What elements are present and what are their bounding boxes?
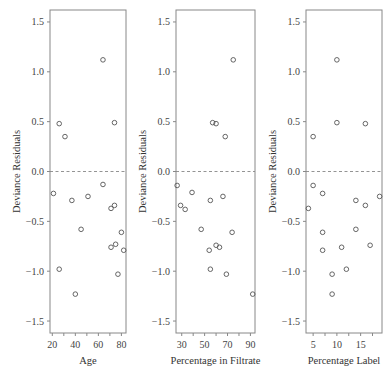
data-point <box>116 272 121 277</box>
y-tick-label: 0.5 <box>158 116 171 127</box>
y-tick-label: −0.5 <box>26 216 44 227</box>
data-point <box>109 245 114 250</box>
y-tick-label: 0.5 <box>288 116 301 127</box>
x-axis-title: Percentage Label <box>308 355 381 366</box>
y-tick-label: −1.5 <box>26 316 44 327</box>
residual-scatter-panels: −1.5−1.0−0.50.00.51.01.520406080AgeDevia… <box>0 0 392 378</box>
data-point <box>57 267 62 272</box>
data-point <box>199 227 204 232</box>
y-tick-label: 0.0 <box>288 166 301 177</box>
data-point <box>250 292 255 297</box>
data-point <box>339 245 344 250</box>
data-point <box>224 272 229 277</box>
data-point <box>113 242 118 247</box>
y-tick-label: −1.5 <box>282 316 300 327</box>
x-tick-label: 10 <box>332 339 342 350</box>
x-tick-label: 20 <box>47 339 57 350</box>
data-point <box>221 194 226 199</box>
x-tick-label: 70 <box>223 339 233 350</box>
data-point <box>377 194 382 199</box>
data-point <box>320 191 325 196</box>
data-point <box>57 121 62 126</box>
y-tick-label: 1.0 <box>288 66 301 77</box>
data-point <box>363 203 368 208</box>
data-point <box>330 272 335 277</box>
x-axis-title: Percentage in Filtrate <box>171 355 261 366</box>
data-point <box>230 230 235 235</box>
y-tick-label: 0.0 <box>32 166 45 177</box>
y-tick-label: 1.5 <box>32 16 45 27</box>
x-tick-label: 60 <box>93 339 103 350</box>
x-axis-title: Age <box>79 355 97 366</box>
y-tick-label: −0.5 <box>282 216 300 227</box>
x-tick-label: 80 <box>116 339 126 350</box>
data-point <box>190 190 195 195</box>
data-point <box>208 267 213 272</box>
data-point <box>354 198 359 203</box>
data-point <box>121 248 126 253</box>
y-tick-label: −1.0 <box>282 266 300 277</box>
data-point <box>178 203 183 208</box>
data-point <box>73 292 78 297</box>
y-tick-label: 1.5 <box>288 16 301 27</box>
y-tick-label: 1.0 <box>32 66 45 77</box>
x-tick-label: 30 <box>177 339 187 350</box>
data-point <box>335 58 340 63</box>
data-point <box>231 58 236 63</box>
data-point <box>335 120 340 125</box>
data-point <box>101 182 106 187</box>
data-point <box>311 134 316 139</box>
data-point <box>207 248 212 253</box>
x-tick-label: 50 <box>200 339 210 350</box>
data-point <box>86 194 91 199</box>
y-tick-label: 1.0 <box>158 66 171 77</box>
panel-percentage-in-filtrate: −1.5−1.0−0.50.00.51.01.530507090Percenta… <box>137 10 261 366</box>
panel-age: −1.5−1.0−0.50.00.51.01.520406080AgeDevia… <box>11 10 126 366</box>
x-tick-label: 90 <box>245 339 255 350</box>
x-tick-label: 40 <box>70 339 80 350</box>
x-tick-label: 5 <box>311 339 316 350</box>
y-axis-title: Deviance Residuals <box>137 130 148 213</box>
data-point <box>63 134 68 139</box>
data-point <box>363 121 368 126</box>
data-point <box>183 207 188 212</box>
data-point <box>208 198 213 203</box>
data-point <box>223 134 228 139</box>
data-point <box>311 183 316 188</box>
panel-percentage-label: −1.5−1.0−0.50.00.51.01.551015Percentage … <box>267 10 382 366</box>
y-tick-label: −1.0 <box>152 266 170 277</box>
y-axis-title: Deviance Residuals <box>11 130 22 213</box>
data-point <box>320 248 325 253</box>
y-tick-label: 1.5 <box>158 16 171 27</box>
data-point <box>368 243 373 248</box>
data-point <box>112 120 117 125</box>
data-point <box>344 267 349 272</box>
y-tick-label: −1.5 <box>152 316 170 327</box>
y-axis-title: Deviance Residuals <box>267 130 278 213</box>
data-point <box>306 206 311 211</box>
data-point <box>320 230 325 235</box>
data-point <box>354 227 359 232</box>
data-point <box>101 58 106 63</box>
data-point <box>330 292 335 297</box>
y-tick-label: 0.5 <box>32 116 45 127</box>
data-point <box>51 191 56 196</box>
x-tick-label: 15 <box>356 339 366 350</box>
data-point <box>79 227 84 232</box>
y-tick-label: −0.5 <box>152 216 170 227</box>
y-tick-label: 0.0 <box>158 166 171 177</box>
y-tick-label: −1.0 <box>26 266 44 277</box>
data-point <box>119 230 124 235</box>
data-point <box>70 198 75 203</box>
data-point <box>112 203 117 208</box>
